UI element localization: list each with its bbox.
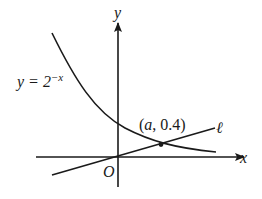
x-axis-label: x bbox=[239, 149, 247, 166]
figure-canvas: y x O y = 2−x ℓ (a, 0.4) bbox=[0, 0, 262, 199]
intersection-label-var: a bbox=[144, 116, 152, 133]
curve-label-exponent: −x bbox=[51, 71, 63, 83]
intersection-point bbox=[159, 142, 164, 147]
line-l bbox=[52, 128, 215, 175]
y-axis-label: y bbox=[112, 4, 122, 22]
origin-label: O bbox=[103, 163, 115, 180]
intersection-label-rest: , 0.4) bbox=[152, 116, 185, 134]
curve-label-lhs: y = 2 bbox=[15, 73, 51, 91]
curve-label: y = 2−x bbox=[15, 71, 63, 91]
intersection-label: (a, 0.4) bbox=[139, 116, 186, 134]
line-label: ℓ bbox=[216, 119, 223, 136]
